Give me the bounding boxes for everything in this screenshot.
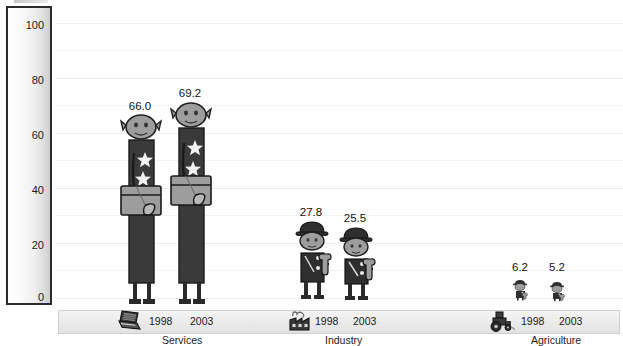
legend-band: 1998 2003 Services 1998 2003 Industry xyxy=(58,310,620,334)
legend-year-agriculture-1998: 1998 xyxy=(521,316,544,327)
legend-year-industry-2003: 2003 xyxy=(353,316,376,327)
data-label-industry-1998: 27.8 xyxy=(288,206,334,218)
legend-group-services[interactable]: 1998 2003 Services xyxy=(117,311,277,335)
y-tick-label-40: 40 xyxy=(32,185,44,196)
y-axis: 100 80 60 40 20 0 xyxy=(6,6,52,305)
pictogram-industry-2003 xyxy=(337,226,381,304)
data-label-services-2003: 69.2 xyxy=(164,87,216,99)
y-tick-label-80: 80 xyxy=(32,75,44,86)
y-tick-label-20: 20 xyxy=(32,240,44,251)
legend-year-services-2003: 2003 xyxy=(190,316,213,327)
legend-label-agriculture: Agriculture xyxy=(531,335,581,346)
laptop-icon xyxy=(117,309,143,333)
pictogram-services-1998 xyxy=(116,113,172,306)
legend-year-industry-1998: 1998 xyxy=(315,316,338,327)
data-label-industry-2003: 25.5 xyxy=(332,212,378,224)
data-label-agriculture-1998: 6.2 xyxy=(503,261,537,273)
data-label-services-1998: 66.0 xyxy=(114,100,166,112)
y-tick-label-100: 100 xyxy=(26,20,44,31)
y-tick-label-60: 60 xyxy=(32,130,44,141)
legend-label-industry: Industry xyxy=(325,335,362,346)
y-tick-label-0: 0 xyxy=(38,292,44,303)
legend-label-services: Services xyxy=(162,335,202,346)
factory-icon xyxy=(287,309,313,333)
top-edge-artifact xyxy=(14,0,48,3)
data-label-agriculture-2003: 5.2 xyxy=(540,261,574,273)
legend-group-industry[interactable]: 1998 2003 Industry xyxy=(287,311,437,335)
legend-group-agriculture[interactable]: 1998 2003 Agriculture xyxy=(487,311,623,335)
pictogram-services-2003 xyxy=(166,101,222,306)
pictogram-agriculture-2003 xyxy=(548,281,568,301)
pictogram-industry-1998 xyxy=(293,220,337,304)
legend-year-agriculture-2003: 2003 xyxy=(559,316,582,327)
pictogram-agriculture-1998 xyxy=(511,279,531,301)
legend-year-services-1998: 1998 xyxy=(149,316,172,327)
tractor-icon xyxy=(487,309,513,333)
